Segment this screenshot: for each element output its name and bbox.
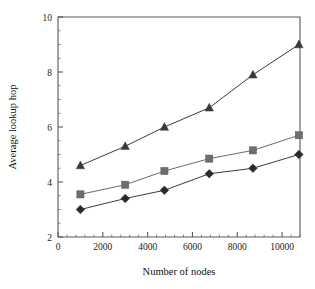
data-point-square xyxy=(161,167,168,174)
data-point-square xyxy=(77,191,84,198)
data-point-diamond xyxy=(160,186,169,195)
data-point-triangle xyxy=(160,123,168,131)
data-point-square xyxy=(249,147,256,154)
plot-frame xyxy=(58,17,300,237)
x-tick-label: 8000 xyxy=(228,242,247,252)
data-point-diamond xyxy=(205,169,214,178)
y-tick-label: 6 xyxy=(47,123,52,133)
data-point-diamond xyxy=(249,164,258,173)
x-tick-label: 4000 xyxy=(138,242,157,252)
data-point-triangle xyxy=(76,161,84,169)
data-point-triangle xyxy=(121,142,129,150)
data-point-diamond xyxy=(121,194,130,203)
data-point-diamond xyxy=(76,205,85,214)
series-line-diamond xyxy=(80,155,298,210)
data-point-triangle xyxy=(249,70,257,78)
series-line-triangle xyxy=(80,45,298,166)
y-axis-title: Average lookup hop xyxy=(7,85,18,170)
x-axis-title: Number of nodes xyxy=(143,266,216,277)
x-tick-label: 2000 xyxy=(93,242,112,252)
chart-figure: 0200040006000800010000246810Number of no… xyxy=(0,0,315,289)
x-tick-label: 10000 xyxy=(270,242,294,252)
data-point-triangle xyxy=(205,103,213,111)
data-point-square xyxy=(206,155,213,162)
y-tick-label: 2 xyxy=(47,233,52,243)
y-tick-label: 8 xyxy=(47,68,52,78)
data-point-square xyxy=(122,181,129,188)
y-tick-label: 10 xyxy=(43,13,53,23)
line-chart: 0200040006000800010000246810Number of no… xyxy=(0,0,315,289)
data-point-triangle xyxy=(295,40,303,48)
x-tick-label: 0 xyxy=(56,242,61,252)
data-point-square xyxy=(295,132,302,139)
data-point-diamond xyxy=(295,150,304,159)
x-tick-label: 6000 xyxy=(183,242,202,252)
y-tick-label: 4 xyxy=(47,178,52,188)
